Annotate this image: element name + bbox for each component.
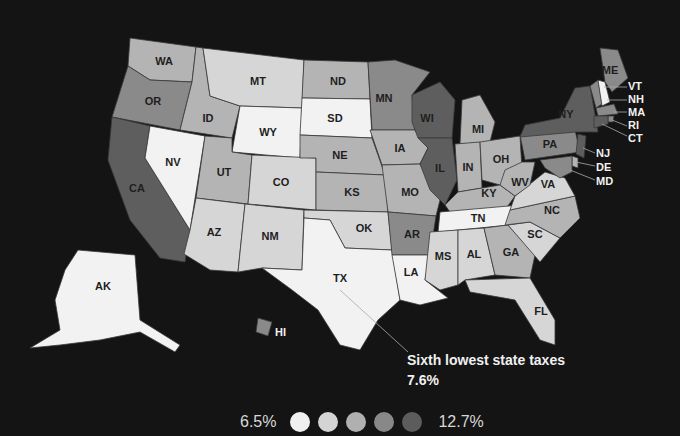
- label-OR: OR: [145, 95, 162, 107]
- label-WA: WA: [155, 55, 173, 67]
- label-NY: NY: [558, 108, 574, 120]
- label-ME: ME: [602, 64, 619, 76]
- tx-callout: Sixth lowest state taxes 7.6%: [407, 350, 565, 390]
- label-IL: IL: [435, 162, 445, 174]
- label-AZ: AZ: [207, 226, 222, 238]
- label-CA: CA: [129, 182, 145, 194]
- us-map: WA OR CA ID NV MT WY UT CO AZ NM ND SD N…: [0, 0, 680, 436]
- label-PA: PA: [543, 138, 558, 150]
- label-IA: IA: [395, 142, 406, 154]
- legend: 6.5% 12.7%: [240, 412, 484, 432]
- label-FL: FL: [534, 305, 548, 317]
- label-ID: ID: [203, 112, 214, 124]
- state-HI[interactable]: [256, 318, 272, 336]
- legend-max: 12.7%: [438, 413, 483, 431]
- legend-bin-2: [318, 412, 338, 432]
- label-AL: AL: [467, 248, 482, 260]
- legend-bin-3: [346, 412, 366, 432]
- label-VT: VT: [628, 80, 642, 92]
- state-MI[interactable]: [460, 95, 495, 144]
- label-MO: MO: [401, 186, 419, 198]
- tax-map: WA OR CA ID NV MT WY UT CO AZ NM ND SD N…: [0, 0, 680, 436]
- label-AK: AK: [95, 280, 111, 292]
- label-WV: WV: [511, 176, 529, 188]
- legend-bin-1: [290, 412, 310, 432]
- label-WY: WY: [259, 126, 277, 138]
- label-VA: VA: [541, 178, 556, 190]
- label-IN: IN: [463, 161, 474, 173]
- callout-text: Sixth lowest state taxes: [407, 350, 565, 370]
- label-NM: NM: [261, 230, 278, 242]
- label-MA: MA: [628, 106, 645, 118]
- label-GA: GA: [503, 246, 520, 258]
- label-TX: TX: [333, 272, 348, 284]
- label-MI: MI: [472, 123, 484, 135]
- state-NJ[interactable]: [576, 134, 586, 158]
- label-ND: ND: [330, 75, 346, 87]
- callout-value: 7.6%: [407, 370, 565, 390]
- label-MT: MT: [250, 75, 266, 87]
- label-SD: SD: [327, 112, 342, 124]
- label-HI: HI: [275, 326, 286, 338]
- label-MD: MD: [596, 175, 613, 187]
- label-DE: DE: [596, 161, 611, 173]
- label-MS: MS: [435, 250, 452, 262]
- label-NC: NC: [544, 204, 560, 216]
- label-NH: NH: [628, 93, 644, 105]
- label-MN: MN: [375, 92, 392, 104]
- label-UT: UT: [217, 166, 232, 178]
- legend-min: 6.5%: [240, 413, 276, 431]
- label-KY: KY: [481, 187, 497, 199]
- label-LA: LA: [404, 266, 419, 278]
- label-TN: TN: [471, 212, 486, 224]
- state-RI[interactable]: [608, 116, 614, 122]
- label-NE: NE: [332, 149, 347, 161]
- legend-bin-5: [402, 412, 422, 432]
- label-NJ: NJ: [596, 147, 610, 159]
- label-CO: CO: [273, 176, 290, 188]
- label-OH: OH: [493, 153, 510, 165]
- label-RI: RI: [628, 119, 639, 131]
- label-OK: OK: [356, 222, 373, 234]
- label-WI: WI: [420, 112, 433, 124]
- label-SC: SC: [527, 228, 542, 240]
- label-CT: CT: [628, 132, 643, 144]
- state-AK[interactable]: [30, 250, 180, 352]
- label-KS: KS: [344, 186, 359, 198]
- label-AR: AR: [404, 228, 420, 240]
- legend-bin-4: [374, 412, 394, 432]
- label-NV: NV: [165, 156, 181, 168]
- state-WI[interactable]: [412, 82, 455, 138]
